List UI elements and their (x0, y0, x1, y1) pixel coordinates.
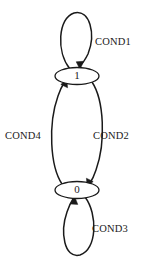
transition-cond2-label: COND2 (93, 130, 129, 141)
transition-cond3[interactable]: COND3 (64, 196, 128, 255)
state-diagram-canvas: COND1 COND2 COND3 COND4 1 0 (0, 0, 154, 268)
state-node-0[interactable]: 0 (55, 182, 99, 199)
transition-cond2[interactable]: COND2 (86, 82, 129, 187)
transition-cond4-label: COND4 (5, 130, 42, 141)
state-node-1[interactable]: 1 (55, 68, 99, 85)
transition-cond1-label: COND1 (95, 36, 131, 47)
state-node-0-label: 0 (74, 183, 80, 195)
transition-cond1[interactable]: COND1 (61, 13, 131, 70)
transition-cond4-path (52, 83, 64, 184)
transition-cond3-path (64, 197, 94, 255)
transition-cond4[interactable]: COND4 (5, 79, 68, 184)
state-diagram: COND1 COND2 COND3 COND4 1 0 (0, 0, 154, 268)
state-node-1-label: 1 (74, 69, 80, 81)
transition-cond3-label: COND3 (92, 223, 128, 234)
transition-cond1-path (61, 13, 92, 69)
